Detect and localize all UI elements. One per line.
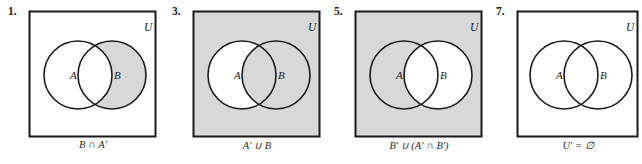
venn-panel-7: 7. U A B U′ = ∅ [496,0,642,164]
circle-b-label-1: B [114,69,121,81]
region-a-only-unshaded-3 [192,10,322,138]
venn-panel-3: 3. [172,0,330,164]
venn-svg-1: U A B [28,10,158,138]
universe-label-3: U [308,21,317,33]
circle-b-label-7: B [600,69,607,81]
universe-label-7: U [626,21,635,33]
circle-b-label-3: B [278,69,285,81]
circle-a-label-7: A [555,69,563,81]
venn-svg-5: U A B [354,10,484,138]
venn-panel-5: 5. U A B B′ ∪ (A′ ∩ B′) [334,0,492,164]
circle-a-label-5: A [395,69,403,81]
panel-caption-5: B′ ∪ (A′ ∩ B′) [344,139,494,151]
panel-number-3: 3. [172,5,181,17]
panel-caption-7: U′ = ∅ [516,139,640,151]
venn-svg-7: U A B [516,10,640,138]
venn-diagram-figure-sheet: 1. U A B B ∩ A′ [0,0,642,164]
venn-panel-1: 1. U A B B ∩ A′ [8,0,166,164]
panel-caption-3: A′ ∪ B [192,139,322,151]
venn-graphic-1: U A B [28,10,158,138]
panel-number-1: 1. [8,5,17,17]
panel-caption-1: B ∩ A′ [28,139,158,150]
venn-graphic-5: U A B [354,10,484,138]
circle-a-label-3: A [233,69,241,81]
circle-a-label-1: A [69,69,77,81]
venn-svg-3: U A B [192,10,322,138]
venn-graphic-3: U A B [192,10,322,138]
universe-box-7 [518,12,638,137]
universe-label-5: U [470,21,479,33]
venn-graphic-7: U A B [516,10,640,138]
panel-number-5: 5. [334,5,343,17]
universe-label-1: U [144,21,153,33]
panel-number-7: 7. [496,5,505,17]
circle-b-label-5: B [440,69,447,81]
